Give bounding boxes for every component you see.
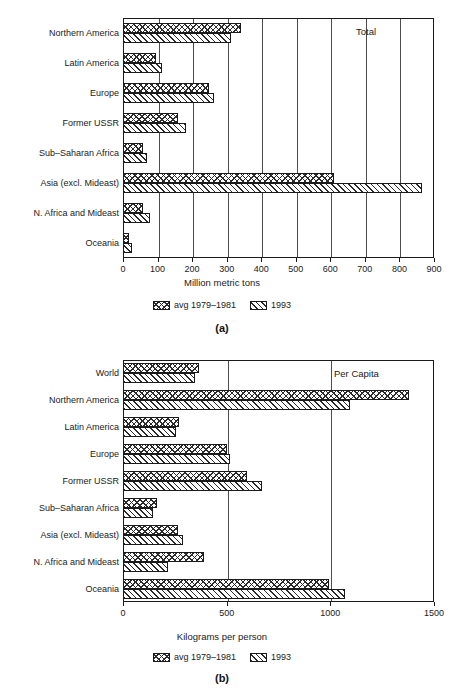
category-label: Europe [90, 449, 119, 459]
bar-1993 [123, 508, 153, 518]
category-label: N. Africa and Mideast [33, 557, 119, 567]
panel-b: 050010001500WorldNorthern AmericaLatin A… [0, 350, 444, 691]
bar-1993 [123, 562, 168, 572]
legend-entry-avg-1979-1981: avg 1979–1981 [153, 652, 236, 662]
bar-avg-1979–1981 [123, 498, 157, 508]
bar-avg-1979–1981 [123, 203, 143, 213]
panel-a-caption: (a) [0, 322, 444, 334]
bar-1993 [123, 400, 350, 410]
bar-avg-1979–1981 [123, 525, 178, 535]
bar-1993 [123, 481, 262, 491]
chart-a-annotation: Total [356, 26, 376, 37]
bar-avg-1979–1981 [123, 363, 199, 373]
x-tick [434, 258, 435, 262]
x-tick [434, 602, 435, 606]
bar-1993 [123, 183, 422, 193]
bar-avg-1979–1981 [123, 552, 204, 562]
legend-entry-avg-1979-1981: avg 1979–1981 [153, 300, 236, 310]
bar-1993 [123, 153, 147, 163]
category-label: World [96, 368, 119, 378]
chart-a-frame [123, 18, 434, 258]
bar-1993 [123, 33, 231, 43]
gridline [400, 19, 401, 257]
bar-1993 [123, 243, 132, 253]
category-label: Europe [90, 88, 119, 98]
category-label: Asia (excl. Mideast) [40, 178, 119, 188]
bar-avg-1979–1981 [123, 579, 329, 589]
category-label: Sub–Saharan Africa [39, 503, 119, 513]
category-label: Asia (excl. Mideast) [40, 530, 119, 540]
x-tick [123, 258, 124, 262]
x-tick-label: 1500 [414, 608, 449, 618]
legend-label-avg-1979-1981: avg 1979–1981 [174, 652, 236, 662]
chart-a-x-axis-title: Million metric tons [0, 277, 444, 288]
chart-b-x-axis-title: Kilograms per person [0, 631, 444, 642]
legend-entry-1993: 1993 [250, 652, 291, 662]
category-label: Former USSR [62, 476, 119, 486]
gridline [193, 19, 194, 257]
bar-1993 [123, 589, 345, 599]
bar-avg-1979–1981 [123, 53, 156, 63]
bar-1993 [123, 535, 183, 545]
bar-1993 [123, 373, 195, 383]
gridline [262, 19, 263, 257]
bar-avg-1979–1981 [123, 417, 179, 427]
panel-a: 0100200300400500600700800900Northern Ame… [0, 0, 444, 350]
x-tick [330, 258, 331, 262]
x-tick [158, 258, 159, 262]
category-label: Latin America [64, 422, 119, 432]
gridline [331, 19, 332, 257]
category-label: Northern America [49, 28, 119, 38]
x-tick [227, 258, 228, 262]
gridline [297, 19, 298, 257]
legend-swatch-crosshatch-icon [153, 301, 170, 310]
gridline [228, 19, 229, 257]
bar-1993 [123, 93, 214, 103]
x-tick-label: 500 [207, 608, 247, 618]
x-tick [296, 258, 297, 262]
category-label: Latin America [64, 58, 119, 68]
bar-avg-1979–1981 [123, 143, 143, 153]
bar-avg-1979–1981 [123, 23, 241, 33]
x-tick [365, 258, 366, 262]
legend-label-avg-1979-1981: avg 1979–1981 [174, 300, 236, 310]
category-label: N. Africa and Mideast [33, 208, 119, 218]
bar-1993 [123, 427, 176, 437]
legend-label-1993: 1993 [271, 652, 291, 662]
bar-avg-1979–1981 [123, 83, 209, 93]
bar-1993 [123, 63, 162, 73]
bar-avg-1979–1981 [123, 444, 227, 454]
x-tick [399, 258, 400, 262]
x-tick-label: 900 [414, 264, 449, 274]
x-tick [227, 602, 228, 606]
legend-swatch-diagonal-icon [250, 301, 267, 310]
gridline [366, 19, 367, 257]
panel-b-caption: (b) [0, 672, 444, 684]
chart-b-legend: avg 1979–1981 1993 [0, 652, 444, 662]
category-label: Oceania [85, 584, 119, 594]
bar-1993 [123, 454, 230, 464]
bar-1993 [123, 123, 186, 133]
bar-avg-1979–1981 [123, 113, 178, 123]
legend-label-1993: 1993 [271, 300, 291, 310]
legend-swatch-crosshatch-icon [153, 653, 170, 662]
x-tick-label: 1000 [310, 608, 350, 618]
x-tick [192, 258, 193, 262]
x-tick [123, 602, 124, 606]
category-label: Oceania [85, 238, 119, 248]
category-label: Northern America [49, 395, 119, 405]
category-label: Former USSR [62, 118, 119, 128]
chart-a-legend: avg 1979–1981 1993 [0, 300, 444, 310]
category-label: Sub–Saharan Africa [39, 148, 119, 158]
chart-b-annotation: Per Capita [334, 368, 379, 379]
gridline [159, 19, 160, 257]
x-tick [330, 602, 331, 606]
bar-avg-1979–1981 [123, 173, 334, 183]
bar-avg-1979–1981 [123, 390, 409, 400]
legend-entry-1993: 1993 [250, 300, 291, 310]
bar-avg-1979–1981 [123, 233, 129, 243]
bar-avg-1979–1981 [123, 471, 247, 481]
x-tick-label: 0 [103, 608, 143, 618]
bar-1993 [123, 213, 150, 223]
x-tick [261, 258, 262, 262]
